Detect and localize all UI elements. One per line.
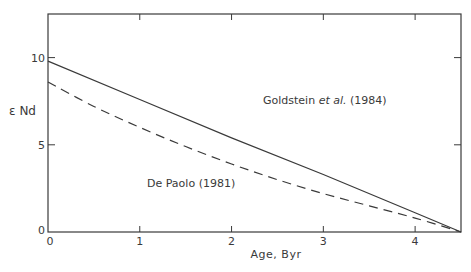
x-tick-label: 4 <box>412 235 419 248</box>
depaolo-annotation: De Paolo (1981) <box>147 177 235 190</box>
plot-frame <box>48 14 461 232</box>
x-tick-label: 0 <box>47 235 54 248</box>
x-tick-label: 2 <box>228 235 235 248</box>
y-axis-ticks: 0510 <box>31 52 461 237</box>
y-tick-label: 5 <box>38 139 45 152</box>
goldstein-annotation: Goldstein et al. (1984) <box>263 94 387 107</box>
y-axis-label: ε Nd <box>9 104 36 118</box>
x-tick-label: 3 <box>320 235 327 248</box>
y-tick-label: 0 <box>38 224 45 237</box>
goldstein-annotation-suffix: (1984) <box>347 94 387 107</box>
goldstein-annotation-italic: et al. <box>319 94 347 107</box>
x-axis-label: Age, Byr <box>251 248 302 261</box>
y-tick-label: 10 <box>31 52 45 65</box>
depaolo-dashed-line <box>48 82 461 232</box>
goldstein-line <box>48 61 461 232</box>
chart: 01234 0510 ε Nd Age, Byr Goldstein et al… <box>0 0 471 272</box>
x-tick-label: 1 <box>136 235 143 248</box>
goldstein-annotation-prefix: Goldstein <box>263 94 319 107</box>
x-axis-ticks: 01234 <box>47 14 419 248</box>
